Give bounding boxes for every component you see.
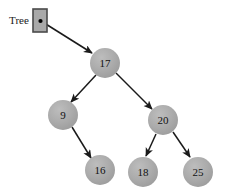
tree-node-20: 20 xyxy=(148,105,178,135)
node-value: 18 xyxy=(138,166,150,178)
edge-group xyxy=(41,21,190,158)
tree-node-9: 9 xyxy=(48,100,78,130)
node-value: 25 xyxy=(193,166,205,178)
tree-node-16: 16 xyxy=(85,155,115,185)
node-value: 20 xyxy=(158,114,170,126)
tree-pointer-label: Tree xyxy=(9,14,29,26)
edge-9-to-16 xyxy=(72,127,91,158)
tree-pointer-dot xyxy=(38,19,42,23)
edge-tree-to-17 xyxy=(41,21,92,53)
tree-diagram-svg: Tree 17 9 20 16 1 xyxy=(0,0,225,196)
tree-node-17: 17 xyxy=(90,48,120,78)
edge-20-to-18 xyxy=(146,134,156,156)
node-group: 17 9 20 16 18 25 xyxy=(48,48,213,187)
node-value: 16 xyxy=(95,164,107,176)
tree-node-18: 18 xyxy=(128,157,158,187)
node-value: 17 xyxy=(100,57,112,69)
edge-20-to-25 xyxy=(173,132,190,157)
tree-pointer: Tree xyxy=(9,9,47,32)
tree-diagram: Tree 17 9 20 16 1 xyxy=(0,0,225,196)
edge-17-to-20 xyxy=(116,73,152,109)
tree-node-25: 25 xyxy=(183,157,213,187)
edge-17-to-9 xyxy=(71,75,96,102)
node-value: 9 xyxy=(60,109,66,121)
